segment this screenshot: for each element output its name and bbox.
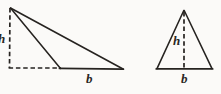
obtuse-triangle-left-edge: [11, 8, 61, 68]
obtuse-triangle-height-label: h: [0, 32, 5, 45]
obtuse-triangle: [9, 8, 124, 69]
isosceles-triangle: [156, 11, 212, 69]
geometry-figure: h b h b: [0, 0, 221, 94]
isosceles-triangle-height-label: h: [173, 34, 180, 47]
isosceles-triangle-right-edge: [184, 11, 212, 69]
obtuse-triangle-base-label: b: [86, 72, 93, 85]
isosceles-triangle-base-label: b: [181, 72, 188, 85]
obtuse-triangle-hypotenuse-edge: [11, 8, 124, 69]
obtuse-triangle-height-line: [10, 8, 11, 68]
obtuse-triangle-base-edge: [60, 68, 124, 69]
